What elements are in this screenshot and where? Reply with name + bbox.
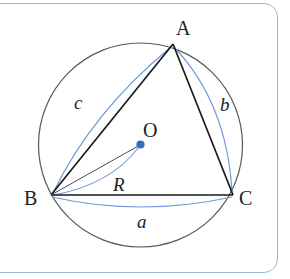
radius-segment-BO <box>51 145 140 195</box>
side-label-c: c <box>74 93 82 112</box>
radius-curve-indicator <box>53 147 139 195</box>
arc-side-a <box>52 197 232 207</box>
figure-page: A B C O a b c R <box>0 0 290 279</box>
triangle-side-b-AC <box>173 44 233 195</box>
center-label-O: O <box>143 120 157 140</box>
vertex-label-C: C <box>239 188 252 208</box>
side-label-b: b <box>220 95 230 114</box>
radius-label-R: R <box>113 175 125 194</box>
circumcenter-dot <box>136 140 144 148</box>
vertex-label-B: B <box>24 188 37 208</box>
geometry-figure: A B C O a b c R <box>0 0 290 279</box>
side-label-a: a <box>137 212 147 231</box>
vertex-label-A: A <box>176 18 190 38</box>
